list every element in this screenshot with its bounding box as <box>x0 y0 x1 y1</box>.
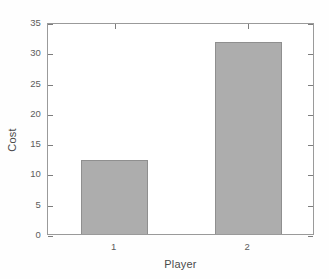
x-tick-label: 1 <box>94 241 134 252</box>
y-tick-mark <box>48 85 53 86</box>
y-tick-mark <box>48 115 53 116</box>
y-tick-mark <box>48 206 53 207</box>
plot-area <box>47 23 314 235</box>
y-tick-label: 30 <box>7 47 41 58</box>
y-tick-mark-right <box>308 24 313 25</box>
bar-2 <box>215 42 282 234</box>
y-tick-mark-right <box>308 145 313 146</box>
y-tick-mark-right <box>308 206 313 207</box>
x-tick-mark-top <box>248 24 249 29</box>
y-tick-label: 0 <box>7 229 41 240</box>
y-tick-mark <box>48 175 53 176</box>
y-tick-mark-right <box>308 85 313 86</box>
y-tick-label: 35 <box>7 17 41 28</box>
y-tick-label: 25 <box>7 78 41 89</box>
y-tick-label: 5 <box>7 199 41 210</box>
y-tick-mark-right <box>308 175 313 176</box>
y-tick-label: 10 <box>7 168 41 179</box>
bar-chart-figure: Cost 05101520253035 12 Player <box>0 0 329 279</box>
y-tick-mark-right <box>308 54 313 55</box>
y-tick-mark-right <box>308 115 313 116</box>
y-tick-label: 20 <box>7 108 41 119</box>
y-tick-mark <box>48 54 53 55</box>
x-axis-title: Player <box>47 258 314 270</box>
y-tick-mark <box>48 145 53 146</box>
bar-1 <box>81 160 148 235</box>
y-tick-mark <box>48 236 53 237</box>
x-tick-label: 2 <box>227 241 267 252</box>
x-tick-mark-top <box>115 24 116 29</box>
y-tick-mark <box>48 24 53 25</box>
y-tick-mark-right <box>308 236 313 237</box>
y-tick-label: 15 <box>7 138 41 149</box>
